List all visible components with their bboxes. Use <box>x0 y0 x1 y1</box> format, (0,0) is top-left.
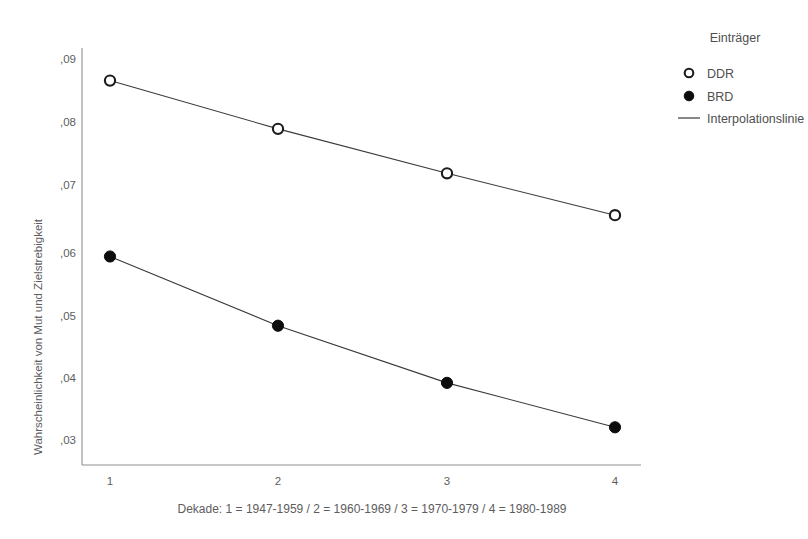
x-tick-label: 4 <box>612 475 619 487</box>
legend-item-label: Interpolationslinie <box>707 112 804 126</box>
y-tick-labels: ,09 ,08 ,07 ,06 ,05 ,04 ,03 <box>60 53 77 446</box>
data-point-open <box>442 168 452 178</box>
chart-container: Wahrscheinlichkeit von Mut und Zielstreb… <box>0 0 808 539</box>
data-point-filled <box>441 377 452 388</box>
legend: Einträger DDR BRD Interpolationslinie <box>678 31 804 126</box>
y-axis-title: Wahrscheinlichkeit von Mut und Zielstreb… <box>32 218 44 455</box>
x-tick-labels: 1 2 3 4 <box>107 475 619 487</box>
line-chart: Wahrscheinlichkeit von Mut und Zielstreb… <box>0 0 808 539</box>
y-tick-label: ,04 <box>60 372 77 384</box>
y-tick-label: ,03 <box>60 434 76 446</box>
y-tick-label: ,06 <box>60 247 76 259</box>
y-tick-label: ,05 <box>60 310 76 322</box>
legend-item-label: DDR <box>707 67 734 81</box>
series-markers-brd <box>104 251 620 433</box>
filled-circle-icon <box>684 91 694 101</box>
y-tick-label: ,08 <box>60 116 76 128</box>
legend-title: Einträger <box>710 31 761 45</box>
data-point-open <box>610 210 620 220</box>
x-tick-label: 2 <box>275 475 281 487</box>
x-tick-label: 3 <box>444 475 450 487</box>
legend-item-interpolation[interactable]: Interpolationslinie <box>678 112 804 126</box>
open-circle-icon <box>685 69 694 78</box>
data-point-filled <box>609 422 620 433</box>
legend-item-brd[interactable]: BRD <box>684 90 733 104</box>
y-tick-label: ,09 <box>60 53 76 65</box>
legend-item-label: BRD <box>707 90 733 104</box>
series-markers-ddr <box>105 75 620 220</box>
legend-item-ddr[interactable]: DDR <box>685 67 734 81</box>
data-point-open <box>273 124 283 134</box>
data-point-open <box>105 75 115 85</box>
y-tick-label: ,07 <box>60 179 76 191</box>
x-axis-caption: Dekade: 1 = 1947-1959 / 2 = 1960-1969 / … <box>178 502 567 516</box>
data-point-filled <box>104 251 115 262</box>
data-point-filled <box>272 320 283 331</box>
x-tick-label: 1 <box>107 475 113 487</box>
series-line-ddr <box>110 81 615 216</box>
series-line-brd <box>110 256 615 427</box>
